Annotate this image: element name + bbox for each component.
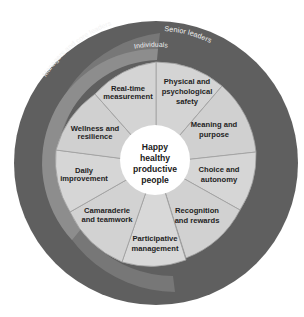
- center-label-line-1: Happy: [142, 142, 168, 152]
- label-meaning-1: Meaning and: [191, 120, 238, 129]
- center-label-line-4: people: [141, 175, 169, 185]
- center-hub: Happy healthy productive people: [120, 125, 190, 195]
- label-meaning-2: purpose: [199, 130, 229, 139]
- label-choice-2: autonomy: [201, 175, 238, 184]
- label-physical-3: safety: [176, 97, 199, 106]
- label-choice-1: Choice and: [199, 165, 240, 174]
- label-camaraderie-1: Camaraderie: [84, 206, 130, 215]
- center-label-line-2: healthy: [140, 153, 170, 163]
- label-daily-2: improvement: [60, 174, 108, 183]
- label-physical-2: psychological: [162, 87, 213, 96]
- label-wellness-2: resilience: [77, 132, 112, 141]
- label-recognition-2: and rewards: [175, 216, 220, 225]
- wellbeing-wheel-diagram: Senior leaders Managers and core leaders…: [0, 0, 304, 317]
- center-label-line-3: productive: [133, 164, 177, 174]
- label-participative-2: management: [132, 244, 179, 253]
- label-camaraderie-2: and teamwork: [81, 215, 133, 224]
- label-participative-1: Participative: [132, 234, 177, 243]
- label-realtime-2: measurement: [103, 92, 153, 101]
- label-recognition-1: Recognition: [175, 206, 219, 215]
- label-physical-1: Physical and: [164, 77, 211, 86]
